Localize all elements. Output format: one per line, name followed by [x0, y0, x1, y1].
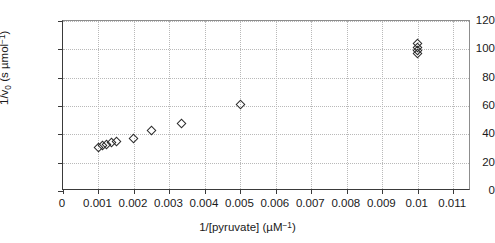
x-axis-tick	[63, 189, 64, 194]
x-axis-tick-label: 0.01	[406, 197, 428, 209]
y-axis-tick	[58, 106, 63, 107]
x-axis-tick	[134, 189, 135, 194]
y-axis-tick	[58, 78, 63, 79]
plot-area	[62, 20, 470, 190]
y-axis-tick	[58, 163, 63, 164]
x-axis-tick	[240, 189, 241, 194]
y-axis-title: 1/v0 (s µmol−1)	[0, 31, 13, 105]
x-axis-tick-label: 0.004	[190, 197, 219, 209]
x-axis-tick	[347, 189, 348, 194]
x-axis-title: 1/[pyruvate] (µM−1)	[0, 221, 495, 233]
gridline-horizontal	[63, 106, 469, 107]
x-axis-tick-label: 0.009	[367, 197, 396, 209]
y-axis-tick	[58, 134, 63, 135]
y-axis-tick-label: 0	[444, 184, 495, 196]
y-axis-tick-label: 80	[444, 71, 495, 83]
x-axis-tick-label: 0	[59, 197, 65, 209]
gridline-vertical	[276, 21, 277, 189]
gridline-vertical	[169, 21, 170, 189]
gridline-horizontal	[63, 49, 469, 50]
x-axis-tick-label: 0.001	[83, 197, 112, 209]
x-axis-tick-label: 0.002	[119, 197, 148, 209]
x-axis-tick-label: 0.003	[154, 197, 183, 209]
x-axis-tick	[418, 189, 419, 194]
gridline-vertical	[382, 21, 383, 189]
data-point-marker	[235, 100, 245, 110]
y-axis-tick-label: 100	[444, 42, 495, 54]
y-axis-tick-label: 20	[444, 156, 495, 168]
x-axis-tick	[276, 189, 277, 194]
x-axis-tick	[382, 189, 383, 194]
data-point-marker	[176, 118, 186, 128]
x-axis-tick-label: 0.008	[331, 197, 360, 209]
x-axis-tick	[98, 189, 99, 194]
x-axis-tick	[169, 189, 170, 194]
x-axis-tick-label: 0.007	[296, 197, 325, 209]
x-axis-tick-label: 0.011	[438, 197, 466, 209]
gridline-horizontal	[63, 163, 469, 164]
y-axis-tick	[58, 49, 63, 50]
x-axis-tick-label: 0.006	[260, 197, 289, 209]
gridline-vertical	[311, 21, 312, 189]
y-axis-tick	[58, 21, 63, 22]
gridline-vertical	[205, 21, 206, 189]
gridline-vertical	[134, 21, 135, 189]
y-axis-tick-label: 40	[444, 127, 495, 139]
x-axis-tick-label: 0.005	[225, 197, 254, 209]
x-axis-tick	[205, 189, 206, 194]
gridline-vertical	[98, 21, 99, 189]
x-axis-tick	[311, 189, 312, 194]
lineweaver-burk-chart: 1/v0 (s µmol−1) 1/[pyruvate] (µM−1) 0204…	[0, 0, 495, 243]
gridline-horizontal	[63, 134, 469, 135]
gridline-horizontal	[63, 21, 469, 22]
gridline-vertical	[347, 21, 348, 189]
gridline-horizontal	[63, 78, 469, 79]
y-axis-tick-label: 120	[444, 14, 495, 26]
y-axis-tick-label: 60	[444, 99, 495, 111]
